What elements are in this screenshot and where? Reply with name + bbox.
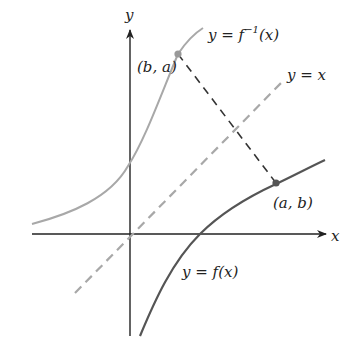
inverse-point-marker [174, 50, 181, 57]
function-curve-label: y = f(x) [181, 263, 238, 281]
inverse-function-diagram: y x y = f−1(x) y = x (b, a) (a, b) y = f… [0, 0, 349, 347]
inverse-curve-label: y = f−1(x) [207, 24, 279, 44]
inverse-point-label: (b, a) [137, 58, 177, 76]
function-point-label: (a, b) [273, 194, 313, 212]
y-axis-label: y [124, 6, 134, 24]
x-axis-label: x [331, 227, 340, 245]
identity-line-label: y = x [286, 66, 327, 84]
reflection-connector [178, 54, 276, 183]
function-curve [140, 160, 325, 336]
function-point-marker [272, 179, 279, 186]
